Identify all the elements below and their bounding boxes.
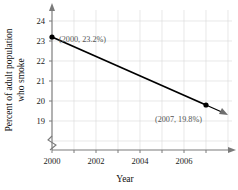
annotation-point-2007: (2007, 19.8%) [155, 115, 202, 124]
y-axis-title-line1: Percent of adult population [4, 28, 14, 131]
x-axis-title: Year [116, 174, 134, 184]
y-axis [49, 3, 55, 150]
y-tick-label-19: 19 [37, 116, 46, 126]
annotation-point-2000: (2000, 23.2%) [59, 35, 106, 44]
y-axis-title-line2: who smoke [16, 58, 26, 102]
chart-canvas: 24 23 22 21 20 19 2000 2002 2004 2006 (2… [0, 0, 238, 190]
line-chart: 24 23 22 21 20 19 2000 2002 2004 2006 (2… [0, 0, 238, 190]
y-tick-label-20: 20 [37, 96, 46, 106]
y-tick-label-23: 23 [37, 36, 46, 46]
x-tick-label-2006: 2006 [176, 156, 193, 166]
y-tick-label-22: 22 [37, 56, 46, 66]
data-point-2007 [203, 102, 208, 107]
grid-vertical [52, 10, 228, 150]
x-tick-label-2004: 2004 [132, 156, 150, 166]
x-tick-label-2002: 2002 [88, 156, 105, 166]
x-tick-label-2000: 2000 [44, 156, 61, 166]
data-point-2000 [49, 34, 54, 39]
y-tick-label-24: 24 [37, 16, 46, 26]
y-tick-label-21: 21 [37, 76, 46, 86]
x-axis [52, 147, 236, 153]
